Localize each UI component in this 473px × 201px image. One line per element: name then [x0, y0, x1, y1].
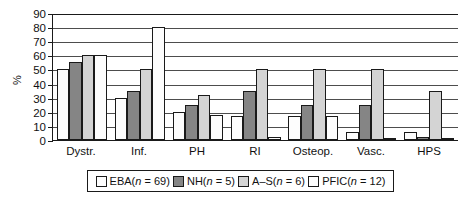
bar-group	[400, 14, 458, 140]
plot-area: 9080706050403020100	[52, 14, 458, 141]
x-axis-category-label: Inf.	[110, 145, 168, 163]
bar	[404, 132, 417, 140]
bar	[429, 91, 442, 140]
bar	[268, 137, 281, 140]
legend-item: PFIC(n = 12)	[308, 175, 385, 187]
bar	[115, 98, 128, 140]
legend-label: A–S(n = 6)	[252, 175, 305, 187]
x-axis-category-label: Dystr.	[52, 145, 110, 163]
bar	[94, 55, 107, 140]
y-axis-title: %	[11, 75, 23, 85]
bar	[173, 112, 186, 140]
x-axis-category-label: Osteop.	[284, 145, 342, 163]
bar-groups	[53, 14, 458, 140]
legend-label: PFIC(n = 12)	[322, 175, 385, 187]
legend-item: EBA(n = 69)	[96, 175, 170, 187]
bar-group	[53, 14, 111, 140]
bar-group	[111, 14, 169, 140]
bar	[231, 116, 244, 140]
bar	[140, 69, 153, 140]
bar-group	[227, 14, 285, 140]
legend-swatch	[173, 176, 184, 187]
legend-swatch	[238, 176, 249, 187]
bar	[301, 105, 314, 140]
bar	[198, 95, 211, 140]
y-axis-tick-label: 10	[33, 121, 46, 133]
bar	[243, 91, 256, 140]
x-axis-category-label: RI	[226, 145, 284, 163]
y-axis-tick-label: 70	[33, 36, 46, 48]
bar-group	[342, 14, 400, 140]
bar	[359, 105, 372, 140]
y-axis-tick-label: 90	[33, 8, 46, 20]
bar	[346, 132, 359, 140]
legend-item: A–S(n = 6)	[238, 175, 305, 187]
y-axis-tick-label: 40	[33, 79, 46, 91]
legend-label: NH(n = 5)	[187, 175, 235, 187]
bar	[210, 115, 223, 140]
y-axis-tick-label: 30	[33, 93, 46, 105]
bar	[256, 69, 269, 140]
chart-legend: EBA(n = 69)NH(n = 5)A–S(n = 6)PFIC(n = 1…	[87, 170, 394, 192]
bar	[152, 27, 165, 140]
bar	[384, 138, 397, 140]
y-axis-tick-label: 20	[33, 107, 46, 119]
bar	[82, 55, 95, 140]
y-axis-tick-label: 50	[33, 64, 46, 76]
legend-item: NH(n = 5)	[173, 175, 235, 187]
bar	[371, 69, 384, 140]
legend-swatch	[96, 176, 107, 187]
bar-group	[169, 14, 227, 140]
bar-chart-figure: % 9080706050403020100 Dystr.Inf.PHRIOste…	[0, 0, 473, 201]
bar	[313, 69, 326, 140]
bar	[288, 116, 301, 140]
bar	[127, 91, 140, 140]
bar	[326, 116, 339, 140]
legend-swatch	[308, 176, 319, 187]
bar	[57, 69, 70, 140]
y-axis-tick-label: 80	[33, 22, 46, 34]
x-axis-category-labels: Dystr.Inf.PHRIOsteop.Vasc.HPS	[52, 145, 458, 163]
bar	[442, 138, 455, 140]
bar	[185, 105, 198, 140]
bar	[417, 137, 430, 140]
legend-label: EBA(n = 69)	[110, 175, 170, 187]
bar-group	[284, 14, 342, 140]
x-axis-category-label: Vasc.	[342, 145, 400, 163]
x-axis-category-label: PH	[168, 145, 226, 163]
y-axis-tick-label: 60	[33, 50, 46, 62]
x-axis-category-label: HPS	[400, 145, 458, 163]
y-axis-tick	[48, 141, 53, 142]
bar	[69, 62, 82, 140]
y-axis-tick-label: 0	[40, 135, 46, 147]
